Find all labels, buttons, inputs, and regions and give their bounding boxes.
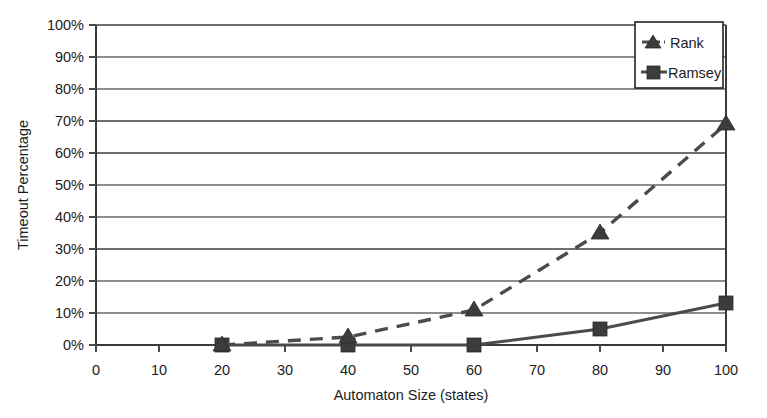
timeout-percentage-line-chart: 100% 90% 80% 70% 60% 50% 40% 30% 20% 10%… (0, 0, 767, 418)
x-tick-label-0: 0 (92, 362, 100, 378)
y-tick-label-40: 40% (55, 209, 84, 225)
y-tick-label-0: 0% (63, 337, 84, 353)
x-axis-title: Automaton Size (states) (334, 387, 489, 403)
x-tick-label-30: 30 (277, 362, 293, 378)
x-tick-label-90: 90 (655, 362, 671, 378)
legend-ramsey-label: Ramsey (668, 65, 722, 81)
legend-rank-label: Rank (670, 35, 705, 51)
y-tick-label-50: 50% (55, 177, 84, 193)
x-tick-label-80: 80 (592, 362, 608, 378)
y-tick-label-60: 60% (55, 145, 84, 161)
legend-entry-ramsey[interactable]: Ramsey (641, 65, 722, 81)
y-tick-label-30: 30% (55, 241, 84, 257)
x-tick-label-60: 60 (466, 362, 482, 378)
y-tick-label-100: 100% (47, 17, 84, 33)
x-tick-label-50: 50 (403, 362, 419, 378)
ramsey-point-60 (467, 338, 481, 352)
chart-legend: Rank Ramsey (635, 22, 723, 88)
y-tick-label-10: 10% (55, 305, 84, 321)
y-tick-label-90: 90% (55, 49, 84, 65)
ramsey-point-100 (719, 296, 733, 310)
chart-container: 100% 90% 80% 70% 60% 50% 40% 30% 20% 10%… (0, 0, 767, 418)
y-tick-label-70: 70% (55, 113, 84, 129)
y-tick-label-20: 20% (55, 273, 84, 289)
y-axis-title: Timeout Percentage (15, 120, 31, 250)
legend-ramsey-square-icon (647, 66, 660, 79)
x-tick-label-20: 20 (214, 362, 230, 378)
x-tick-label-70: 70 (529, 362, 545, 378)
x-tick-label-40: 40 (340, 362, 356, 378)
ramsey-point-80 (593, 322, 607, 336)
x-tick-label-10: 10 (151, 362, 167, 378)
x-tick-label-100: 100 (714, 362, 738, 378)
y-tick-label-80: 80% (55, 81, 84, 97)
